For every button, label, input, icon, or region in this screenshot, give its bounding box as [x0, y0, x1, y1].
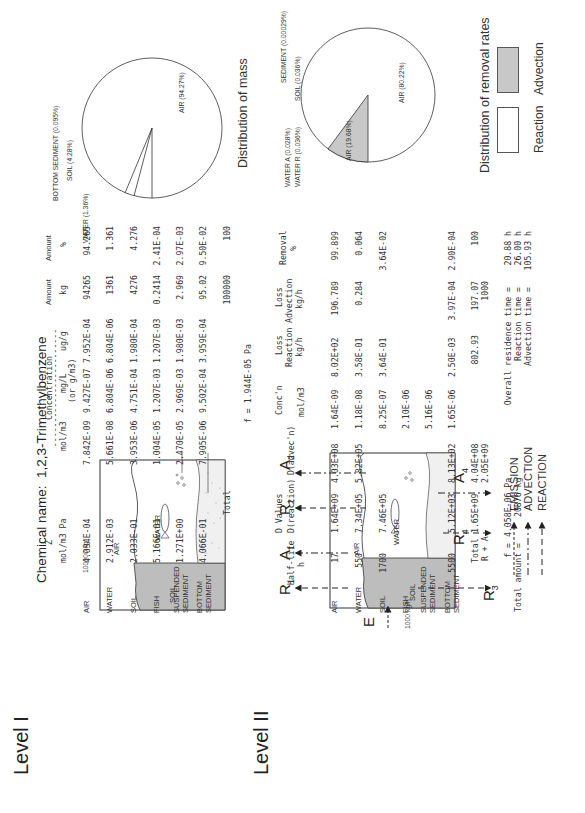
- l2-cell-dr: 1.64E+09: [330, 494, 340, 533]
- l1-header-kg: kg: [58, 285, 68, 295]
- l2-cell-lr: 8.02E+02: [330, 338, 340, 377]
- l2-cell-conc: 2.10E-06: [401, 390, 411, 429]
- pie1-label-water: WATER (1.36%): [82, 194, 89, 243]
- l1-cell-molm3: 7.842E-09: [82, 421, 92, 465]
- l2-row-name: AIR: [330, 600, 339, 613]
- l1-header-ugg: ug/g: [58, 331, 68, 351]
- l2-total-dr: 1.65E+09: [470, 494, 480, 533]
- l2-cell-da: 8.13E+02: [447, 444, 457, 483]
- l1-cell-kg: 4276: [129, 275, 139, 313]
- l2-header-half-life: Half-life: [286, 541, 296, 585]
- l2-row-name: SOIL: [378, 596, 387, 613]
- l1-row-name: SOIL: [129, 596, 138, 613]
- pie2-caption: Distribution of removal rates: [478, 17, 492, 173]
- pie1-caption: Distribution of mass: [236, 58, 250, 168]
- l2-row-name: FISH: [401, 596, 410, 613]
- pie2-label-sediment: SEDIMENT (0.00029%): [280, 11, 287, 83]
- l1-row-name: SUSPENDED: [172, 566, 181, 613]
- l1-header-mgL-sub: (or g/m3): [67, 359, 77, 403]
- l2-header-loss-a-unit: kg/h: [294, 289, 304, 309]
- l2-total-rem: 100: [470, 231, 480, 275]
- l2-cell-dr: 7.34E+05: [354, 494, 364, 533]
- l2-header-d-advection: D(advec'n): [286, 426, 296, 475]
- l2-total-amount-label: Total amount =: [513, 543, 523, 623]
- l2-cell-rem: 3.64E-02: [378, 231, 388, 275]
- level1-title: Level I: [10, 716, 33, 775]
- l2-cell-half: 1700: [378, 553, 388, 581]
- l1-cell-molm3: 7.905E-06: [198, 421, 208, 465]
- l1-cell-molm3: 2.470E-05: [175, 421, 185, 465]
- l1-cell-ugg: 6.804E-06: [105, 319, 115, 363]
- l1-cell-kg: 95.02: [198, 275, 208, 313]
- l1-total-pct: 100: [222, 226, 232, 268]
- l2-cell-conc: 8.25E-07: [378, 390, 388, 429]
- mass-distribution-pie: [72, 48, 232, 208]
- l2-cell-half: 5500: [447, 553, 457, 581]
- l1-total-kg: 100000: [222, 275, 232, 313]
- l2-cell-la: 0.284: [354, 281, 364, 323]
- l2-row-name2: SEDIMENT: [428, 574, 437, 613]
- l2-total-loss: 1000: [480, 281, 490, 323]
- l2-total-label: Total: [470, 538, 480, 563]
- l2-f-value: 4.058E-06 Pa: [503, 478, 513, 537]
- l2-header-conc-unit: mol/m3: [296, 387, 306, 417]
- removal-distribution-pie: [298, 25, 438, 165]
- l1-row-name: FISH: [152, 596, 161, 613]
- legend-label-advection: Advection: [532, 42, 546, 95]
- l1-header-amount-pct: Amount: [44, 235, 53, 261]
- legend-label-reaction: Reaction: [532, 106, 546, 153]
- l1-cell-molm3: 1.004E-05: [152, 421, 162, 465]
- l1-row-name2: SEDIMENT: [181, 574, 190, 613]
- l2-row-name: BOTTOM: [443, 581, 452, 613]
- l1-row-name: BOTTOM: [195, 581, 204, 613]
- l2-cell-la: 3.97E-04: [447, 281, 457, 323]
- l2-cell-da: 4.03E+08: [330, 444, 340, 483]
- l1-row-name2: SEDIMENT: [204, 574, 213, 613]
- l1-cell-kg: 2.969: [175, 275, 185, 313]
- pie2-label-air-r: AIR (80.22%): [398, 62, 405, 103]
- l2-cell-conc: 1.65E-06: [447, 390, 457, 429]
- pie2-label-air-a: AIR (19.68%): [345, 120, 352, 161]
- l1-cell-z: 1.271E+00: [175, 519, 185, 563]
- l1-cell-ugg: 7.952E-04: [82, 319, 92, 363]
- l2-header-loss-r2: Reaction: [284, 328, 294, 367]
- l2-cell-lr: 3.58E-01: [354, 338, 364, 377]
- l2-header-d-reaction: D(reaction): [286, 479, 296, 533]
- legend-swatch-reaction: [497, 107, 519, 153]
- l2-header-removal: Removal: [278, 230, 288, 265]
- l1-cell-mgL: 9.502E-04: [198, 369, 208, 413]
- pie1-label-soil: SOIL (4.28%): [66, 140, 73, 181]
- l2-cell-conc: 1.64E-09: [330, 390, 340, 429]
- arrow-label-R3: R3: [480, 585, 500, 601]
- l1-cell-mgL: 4.751E-04: [129, 369, 139, 413]
- l2-cell-lr: 2.50E-03: [447, 338, 457, 377]
- time-label-residence: Overall residence time =: [503, 287, 513, 415]
- time-value-advection: 105.93 h: [523, 231, 533, 283]
- l1-cell-z: 2.033E-01: [129, 519, 139, 563]
- pie2-label-water-a: WATER A (0.028%): [284, 128, 291, 187]
- l1-cell-ugg: 1.980E-03: [175, 319, 185, 363]
- l1-cell-mgL: 6.804E-06: [105, 369, 115, 413]
- l1-cell-kg: 94265: [82, 275, 92, 313]
- l1-header-amount-kg: Amount: [44, 279, 53, 305]
- l2-cell-conc: 5.16E-06: [424, 390, 434, 429]
- document-page: Level I Chemical name: 1,2,3-Trimethylbe…: [0, 0, 585, 813]
- l2-f-label: f =: [503, 543, 513, 593]
- l2-cell-dr: 5.12E+03: [447, 494, 457, 533]
- l1-row-name: AIR: [82, 600, 91, 613]
- l2-row-name: WATER: [354, 587, 363, 613]
- l2-cell-rem: 2.90E-04: [447, 231, 457, 275]
- l2-cell-da: 5.82E+05: [354, 444, 364, 483]
- l2-cell-rem: 0.064: [354, 231, 364, 275]
- l1-cell-pct: 2.41E-04: [152, 226, 162, 268]
- l2-header-loss-r-unit: kg/h: [294, 337, 304, 357]
- l2-header-conc: Conc'n: [274, 385, 284, 415]
- pie1-label-air: AIR (94.27%): [178, 72, 185, 113]
- l1-cell-pct: 2.97E-03: [175, 226, 185, 268]
- l2-cell-conc: 1.18E-08: [354, 390, 364, 429]
- pie2-label-soil: SOIL (0.036%): [294, 56, 301, 101]
- l1-header-pct: %: [58, 242, 68, 247]
- l1-cell-pct: 9.50E-02: [198, 226, 208, 268]
- l1-cell-molm3: 5.661E-08: [105, 421, 115, 465]
- arrow-label-E: E: [360, 617, 377, 627]
